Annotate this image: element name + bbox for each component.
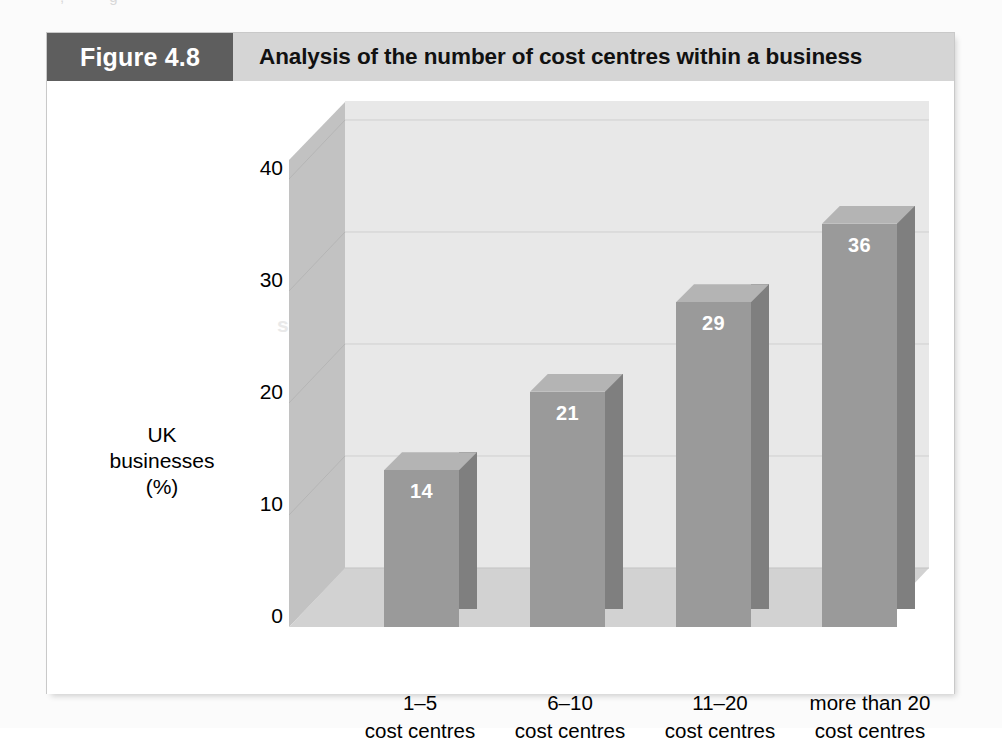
figure-number-badge: Figure 4.8 [47,33,233,81]
bar-side-face [897,206,915,609]
y-axis-tick-0: 0 [243,604,283,628]
y-axis-title-line-1: UK [87,422,237,448]
x-axis-label-range: 11–20 [645,689,795,717]
bar-front-face [530,392,605,627]
bar-1: 14 [384,452,459,627]
bar-side-face [605,374,623,609]
x-axis-label-3: 11–20cost centres [645,689,795,742]
x-axis-label-2: 6–10cost centres [495,689,645,742]
x-axis-label-4: more than 20cost centres [795,689,945,742]
chart-area: a new business, which that it may need s… [47,81,954,694]
x-axis-label-range: more than 20 [795,689,945,717]
y-axis-tick-30: 30 [243,268,283,292]
bar-value-label: 29 [676,312,751,335]
x-axis-label-unit: cost centres [645,717,795,742]
x-axis-labels: 1–5cost centres6–10cost centres11–20cost… [345,689,945,742]
y-axis-tick-40: 40 [243,156,283,180]
x-axis-label-range: 6–10 [495,689,645,717]
bar-value-label: 14 [384,480,459,503]
bar-value-label: 21 [530,402,605,425]
x-axis-label-unit: cost centres [795,717,945,742]
bar-side-face [751,284,769,609]
bar-3: 29 [676,284,751,627]
bar-value-label: 36 [822,234,897,257]
bar-front-face [822,224,897,627]
plot-left-wall [289,101,346,627]
y-axis-tick-20: 20 [243,380,283,404]
x-axis-label-range: 1–5 [345,689,495,717]
figure-header: Figure 4.8 Analysis of the number of cos… [47,33,954,81]
x-axis-label-unit: cost centres [345,717,495,742]
bar-side-face [459,452,477,609]
plot-3d: 14212936 [289,101,929,631]
figure-container: Figure 4.8 Analysis of the number of cos… [46,32,955,694]
bar-2: 21 [530,374,605,627]
x-axis-label-1: 1–5cost centres [345,689,495,742]
figure-title: Analysis of the number of cost centres w… [233,33,954,81]
y-axis-title-line-2: businesses [87,448,237,474]
y-axis-title-line-3: (%) [87,474,237,500]
x-axis-label-unit: cost centres [495,717,645,742]
bar-front-face [676,302,751,627]
y-axis-tick-10: 10 [243,492,283,516]
y-axis-ticks: 010203040 [243,129,283,742]
scan-bleed-top: , g . [60,0,960,6]
bar-4: 36 [822,206,897,627]
y-axis-title: UK businesses (%) [87,422,237,500]
